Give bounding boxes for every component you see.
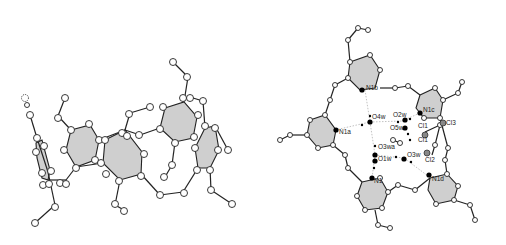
- label-o1w: O1w: [378, 155, 392, 162]
- atom-o2w: [402, 117, 407, 122]
- ring-n1: [357, 178, 388, 210]
- atom-n1d: [426, 172, 431, 177]
- label-n1a: N1a: [339, 128, 351, 135]
- label-n1b: N1b: [366, 84, 378, 91]
- label-o4w: O4w: [372, 113, 386, 120]
- label-cl3: Cl3: [446, 119, 456, 126]
- atom-o1w: [372, 158, 377, 163]
- label-o2w: O2w: [393, 111, 407, 118]
- atom-o3wa: [372, 152, 377, 157]
- label-cl1-upper: Cl1: [418, 122, 428, 129]
- label-cl1-lower: Cl1: [418, 136, 428, 143]
- label-n1d: N1d: [432, 175, 444, 182]
- atom-n1a: [333, 127, 338, 132]
- label-cl2: Cl2: [425, 156, 435, 163]
- right-panel-top-view: N1b N1a N1c N1 N1d O4w O2w O5w O3wa O1w …: [278, 26, 478, 231]
- left-panel-side-view: [22, 59, 236, 227]
- figure: N1b N1a N1c N1 N1d O4w O2w O5w O3wa O1w …: [0, 0, 506, 245]
- atom-n1b: [359, 87, 364, 92]
- label-n1: N1: [374, 177, 383, 184]
- label-o5w: O5w: [390, 124, 404, 131]
- atom-n1c: [417, 110, 422, 115]
- atom-o4w: [367, 119, 372, 124]
- label-o3wa: O3wa: [378, 143, 395, 150]
- molecule-diagram: N1b N1a N1c N1 N1d O4w O2w O5w O3wa O1w …: [0, 0, 506, 245]
- label-n1c: N1c: [423, 106, 435, 113]
- atom-o3w: [401, 156, 406, 161]
- label-o3w: O3w: [407, 151, 421, 158]
